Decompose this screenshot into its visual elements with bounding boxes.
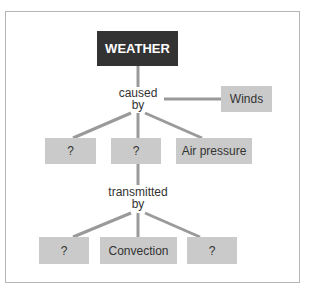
convection-node: Convection xyxy=(100,237,177,264)
air-pressure-node: Air pressure xyxy=(176,138,252,164)
caused-by-line2: by xyxy=(112,99,164,111)
transmitted-by-line2: by xyxy=(106,198,170,210)
cause-unknown-node-2: ? xyxy=(111,138,161,164)
transmitted-by-label: transmitted by xyxy=(106,186,170,210)
transmit-unknown-node-2: ? xyxy=(187,237,237,264)
transmit-unknown-node-1: ? xyxy=(39,237,89,264)
caused-by-label: caused by xyxy=(112,87,164,111)
cause-unknown-node-1: ? xyxy=(45,138,96,164)
weather-node: WEATHER xyxy=(97,31,178,66)
winds-node: Winds xyxy=(221,86,272,112)
